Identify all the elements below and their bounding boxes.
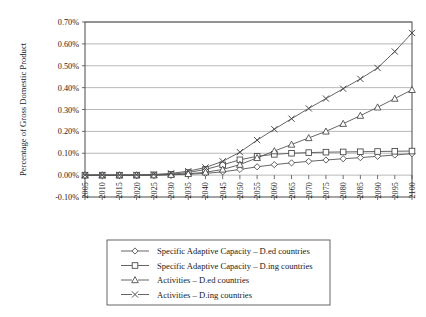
x-tick-label: 2020 <box>133 182 142 198</box>
x-tick-label: 2080 <box>339 182 348 198</box>
marker-triangle <box>340 120 347 126</box>
x-tick-label: 2040 <box>201 182 210 198</box>
marker-cross <box>323 95 329 101</box>
y-tick-label: 0.10% <box>58 149 79 158</box>
marker-diamond <box>288 160 294 166</box>
marker-cross <box>254 137 260 143</box>
x-tick-label: 2085 <box>356 182 365 198</box>
marker-triangle <box>305 135 312 141</box>
marker-square <box>289 150 295 156</box>
x-tick-label: 2005 <box>81 182 90 198</box>
marker-square <box>375 149 381 155</box>
marker-square <box>306 150 312 156</box>
marker-diamond <box>357 155 363 161</box>
x-tick-label: 2075 <box>322 182 331 198</box>
marker-triangle <box>374 104 381 110</box>
y-tick-label: 0.30% <box>58 106 79 115</box>
x-tick-label: 2010 <box>98 182 107 198</box>
gdp-percentage-line-chart: Percentage of Gross Domestic Product0.70… <box>0 0 426 317</box>
x-tick-label: 2100 <box>408 182 417 198</box>
marker-diamond <box>323 157 329 163</box>
x-tick-label: 2065 <box>288 182 297 198</box>
marker-square <box>409 148 415 154</box>
marker-triangle <box>288 141 295 147</box>
marker-cross <box>288 116 294 122</box>
y-tick-label: 0.20% <box>58 127 79 136</box>
y-axis-title: Percentage of Gross Domestic Product <box>18 42 28 176</box>
chart-container: Percentage of Gross Domestic Product0.70… <box>0 0 426 317</box>
marker-diamond <box>254 164 260 170</box>
y-tick-label: 0.70% <box>58 18 79 27</box>
series-1 <box>82 151 415 179</box>
marker-diamond <box>271 162 277 168</box>
x-tick-label: 2055 <box>253 182 262 198</box>
marker-cross <box>237 149 243 155</box>
y-tick-label: 0.50% <box>58 62 79 71</box>
marker-triangle <box>391 95 398 101</box>
marker-triangle <box>357 112 364 118</box>
x-tick-label: 2045 <box>219 182 228 198</box>
marker-triangle <box>271 148 278 154</box>
x-tick-label: 2090 <box>374 182 383 198</box>
y-tick-label: 0.40% <box>58 84 79 93</box>
series-2 <box>82 148 415 178</box>
series-4 <box>82 30 415 178</box>
marker-square <box>132 263 138 269</box>
series-3 <box>82 86 416 177</box>
x-tick-label: 2030 <box>167 182 176 198</box>
series-line <box>85 90 412 175</box>
y-tick-label: -0.10% <box>55 193 79 202</box>
marker-square <box>340 149 346 155</box>
y-tick-label: 0.60% <box>58 40 79 49</box>
marker-cross <box>357 76 363 82</box>
x-tick-label: 2060 <box>270 182 279 198</box>
marker-square <box>392 148 398 154</box>
x-tick-label: 2035 <box>184 182 193 198</box>
marker-diamond <box>306 158 312 164</box>
legend-label: Specific Adaptive Capacity – D.ed countr… <box>157 246 310 256</box>
marker-cross <box>340 86 346 92</box>
x-tick-label: 2050 <box>236 182 245 198</box>
marker-square <box>358 149 364 155</box>
legend-label: Specific Adaptive Capacity – D.ing count… <box>157 261 313 271</box>
y-tick-label: 0.00% <box>58 171 79 180</box>
legend-label: Activities – D.ed countries <box>157 275 250 285</box>
marker-diamond <box>340 156 346 162</box>
x-tick-label: 2070 <box>305 182 314 198</box>
marker-cross <box>392 48 398 54</box>
x-tick-label: 2025 <box>150 182 159 198</box>
marker-cross <box>306 105 312 111</box>
x-tick-label: 2095 <box>391 182 400 198</box>
x-tick-label: 2015 <box>115 182 124 198</box>
legend-label: Activities – D.ing countries <box>157 290 253 300</box>
marker-square <box>323 149 329 155</box>
